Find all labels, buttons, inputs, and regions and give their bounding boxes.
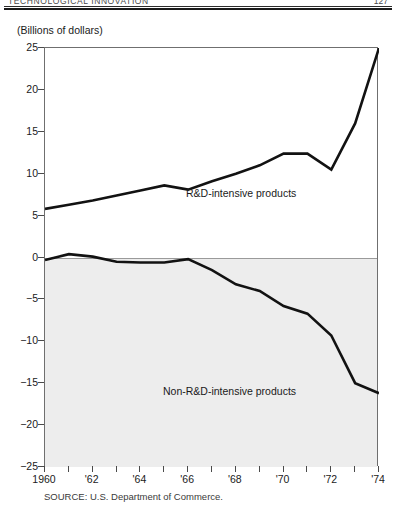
x-axis-tick: [44, 466, 45, 472]
y-axis-tick: [38, 215, 44, 216]
series-annotation-rd-intensive: R&D-intensive products: [186, 187, 296, 199]
y-axis-tick-label: 20: [6, 83, 38, 95]
x-axis-tick: [259, 466, 260, 472]
header-rule-thick: [4, 8, 392, 10]
x-axis-tick-label: '72: [323, 473, 337, 485]
page-number: 127: [374, 0, 388, 5]
y-axis-tick-label: −10: [6, 334, 38, 346]
x-axis-tick: [283, 466, 284, 472]
x-axis-tick-label: 1960: [32, 473, 55, 485]
x-axis-tick: [139, 466, 140, 472]
x-axis-tick-label: '68: [228, 473, 242, 485]
y-axis-tick: [38, 382, 44, 383]
y-axis-tick: [38, 298, 44, 299]
x-axis-tick-label: '64: [133, 473, 147, 485]
x-axis-tick-label: '66: [180, 473, 194, 485]
y-axis-tick: [38, 257, 44, 258]
x-axis-tick: [378, 466, 379, 472]
y-axis-tick-label: −5: [6, 292, 38, 304]
y-axis-tick: [38, 424, 44, 425]
x-axis-tick: [354, 466, 355, 472]
header-rule-thin: [4, 6, 392, 7]
chart-plot-area: R&D-intensive products Non-R&D-intensive…: [44, 47, 378, 466]
y-axis-tick: [38, 89, 44, 90]
y-axis-tick-label: −20: [6, 418, 38, 430]
y-axis-tick: [38, 47, 44, 48]
y-axis-tick-label: −15: [6, 376, 38, 388]
source-note: SOURCE: U.S. Department of Commerce.: [44, 491, 223, 502]
x-axis-tick: [235, 466, 236, 472]
page-header: TECHNOLOGICAL INNOVATION 127: [0, 0, 396, 12]
x-axis-ticks: [44, 466, 378, 473]
x-axis-tick: [330, 466, 331, 472]
series-line-rd-intensive: [45, 48, 379, 209]
y-axis-tick: [38, 340, 44, 341]
x-axis-tick: [187, 466, 188, 472]
y-axis-tick-label: 15: [6, 125, 38, 137]
y-axis-tick: [38, 131, 44, 132]
y-axis-tick-label: 25: [6, 41, 38, 53]
x-axis-tick: [306, 466, 307, 472]
y-axis-tick: [38, 466, 44, 467]
x-axis-tick-label: '62: [85, 473, 99, 485]
x-axis-tick: [116, 466, 117, 472]
x-axis-tick: [68, 466, 69, 472]
x-axis-labels: 1960'62'64'66'68'70'72'74: [0, 473, 396, 487]
x-axis-tick-label: '70: [276, 473, 290, 485]
y-axis-tick-label: 5: [6, 209, 38, 221]
y-axis-tick-label: 0: [6, 251, 38, 263]
x-axis-tick-label: '74: [371, 473, 385, 485]
y-axis-tick: [38, 173, 44, 174]
y-axis-tick-label: 10: [6, 167, 38, 179]
x-axis-tick: [92, 466, 93, 472]
series-lines: [45, 48, 379, 467]
series-line-non-rd-intensive: [45, 254, 379, 393]
y-axis-tick-label: −25: [6, 460, 38, 472]
x-axis-tick: [211, 466, 212, 472]
x-axis-tick: [163, 466, 164, 472]
series-annotation-non-rd-intensive: Non-R&D-intensive products: [163, 385, 296, 397]
